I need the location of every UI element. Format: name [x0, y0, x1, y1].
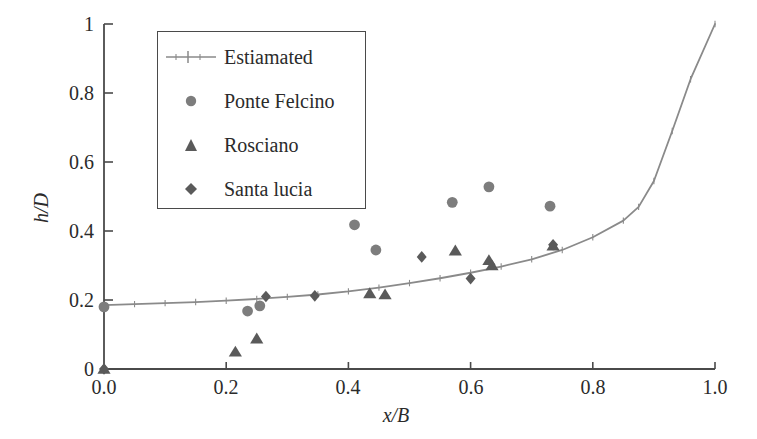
data-point-circle	[370, 245, 381, 256]
legend-label-estiamated: Estiamated	[224, 46, 313, 69]
x-tick-label-1: 0.2	[214, 376, 239, 399]
data-point-circle	[545, 201, 556, 212]
data-point-circle	[447, 197, 458, 208]
data-point-circle	[254, 300, 265, 311]
x-tick-label-3: 0.6	[459, 376, 484, 399]
y-axis-title: h/D	[30, 193, 53, 223]
line-marker-icon	[158, 35, 224, 79]
diamond-marker-icon	[158, 167, 224, 211]
y-tick-label-5: 1	[72, 13, 94, 36]
data-point-triangle	[229, 346, 242, 357]
x-tick-label-2: 0.4	[336, 376, 361, 399]
y-tick-label-4: 0.8	[52, 82, 94, 105]
x-tick-label-5: 1.0	[703, 376, 728, 399]
legend: Estiamated Ponte Felcino Rosciano	[157, 31, 366, 209]
chart-figure: 0.0 0.2 0.4 0.6 0.8 1.0 0 0.2 0.4 0.6 0.…	[0, 0, 757, 439]
triangle-marker-icon	[158, 123, 224, 167]
series-rosciano	[97, 240, 559, 374]
y-tick-label-0: 0	[72, 358, 94, 381]
data-point-circle	[99, 302, 110, 313]
data-point-circle	[484, 181, 495, 192]
legend-label-rosciano: Rosciano	[224, 134, 298, 157]
data-point-triangle	[250, 333, 263, 344]
legend-label-ponte-felcino: Ponte Felcino	[224, 90, 335, 113]
legend-item-ponte-felcino[interactable]: Ponte Felcino	[158, 79, 365, 123]
y-tick-label-1: 0.2	[52, 289, 94, 312]
data-point-circle	[242, 306, 253, 317]
y-tick-label-3: 0.6	[52, 151, 94, 174]
plot-canvas	[0, 0, 757, 439]
data-point-triangle	[449, 245, 462, 256]
x-tick-label-4: 0.8	[581, 376, 606, 399]
data-point-diamond	[417, 251, 427, 263]
y-tick-label-2: 0.4	[52, 220, 94, 243]
x-axis-title: x/B	[383, 404, 410, 427]
circle-marker-icon	[158, 79, 224, 123]
data-point-diamond	[261, 291, 271, 303]
legend-item-rosciano[interactable]: Rosciano	[158, 123, 365, 167]
legend-item-estiamated[interactable]: Estiamated	[158, 35, 365, 79]
x-tick-label-0: 0.0	[92, 376, 117, 399]
data-point-diamond	[466, 273, 476, 285]
data-point-triangle	[378, 288, 391, 299]
data-point-circle	[349, 219, 360, 230]
legend-item-santa-lucia[interactable]: Santa lucia	[158, 167, 365, 211]
legend-label-santa-lucia: Santa lucia	[224, 178, 312, 201]
